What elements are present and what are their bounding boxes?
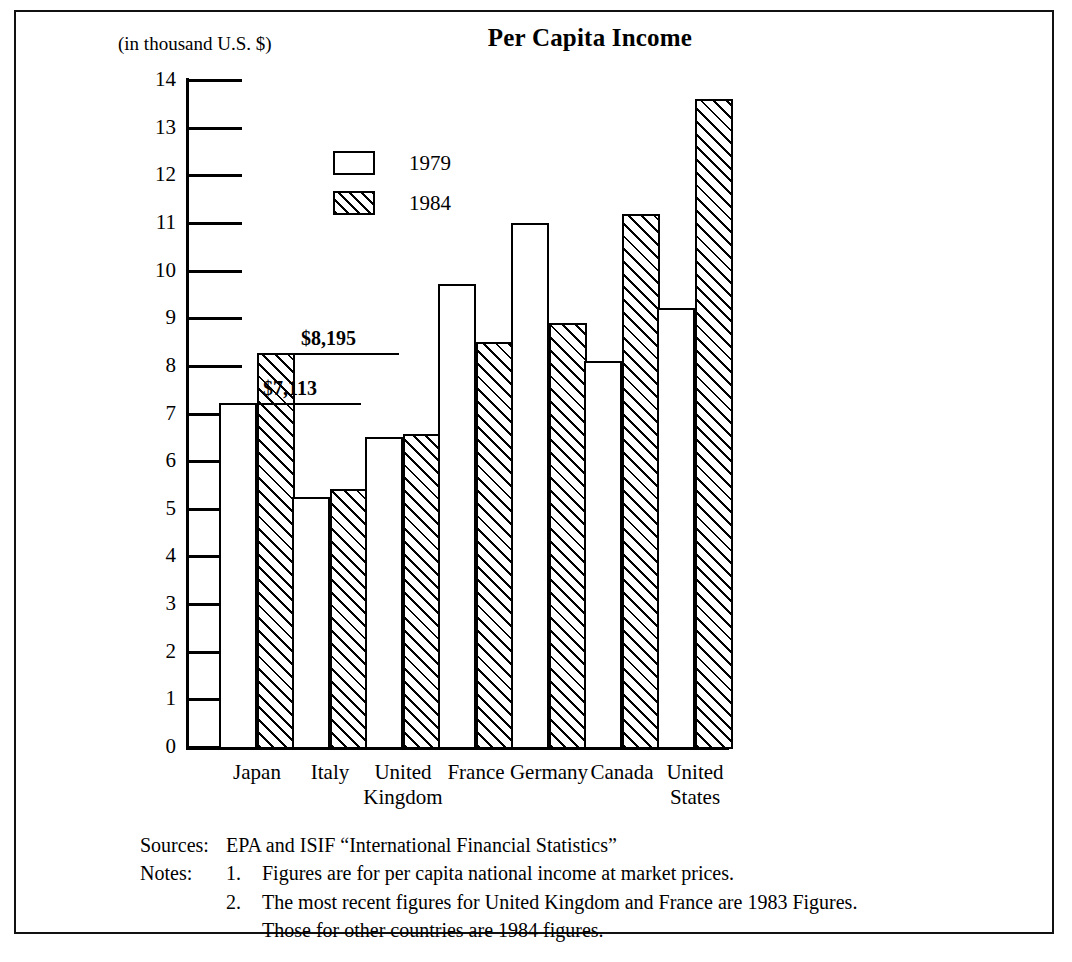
y-tick-label-7: 7 <box>130 403 176 424</box>
leader-line-8195 <box>295 353 399 355</box>
legend-swatch-hatched-icon <box>333 191 375 215</box>
note-1-number: 1. <box>226 859 262 887</box>
bar-canada-1979 <box>584 361 622 749</box>
y-tick-9 <box>186 317 242 320</box>
legend-swatch-open-icon <box>333 151 375 175</box>
footnotes-block: Sources: EPA and ISIF “International Fin… <box>140 831 857 945</box>
y-tick-label-8: 8 <box>130 355 176 376</box>
y-tick-label-2: 2 <box>130 641 176 662</box>
bar-united-states-1979 <box>657 308 695 749</box>
y-tick-label-13: 13 <box>130 117 176 138</box>
x-label-united-states: United States <box>629 760 761 810</box>
bar-japan-1979 <box>219 403 257 749</box>
y-tick-label-5: 5 <box>130 498 176 519</box>
y-tick-label-11: 11 <box>130 212 176 233</box>
bar-france-1979 <box>438 284 476 749</box>
bar-canada-1984 <box>622 214 660 749</box>
value-label-7113: $7,113 <box>263 377 317 400</box>
note-1: Notes: 1. Figures are for per capita nat… <box>140 859 857 887</box>
sources-line: Sources: EPA and ISIF “International Fin… <box>140 831 857 859</box>
y-tick-label-14: 14 <box>130 69 176 90</box>
y-tick-label-9: 9 <box>130 307 176 328</box>
y-tick-label-0: 0 <box>130 736 176 757</box>
bar-germany-1979 <box>511 223 549 749</box>
plot-area: 01234567891011121314 JapanItalyUnited Ki… <box>0 0 1072 962</box>
notes-label: Notes: <box>140 859 226 887</box>
y-tick-13 <box>186 127 242 130</box>
sources-label: Sources: <box>140 831 226 859</box>
note-2: 2. The most recent figures for United Ki… <box>140 888 857 916</box>
y-tick-label-1: 1 <box>130 688 176 709</box>
bar-united-kingdom-1984 <box>403 434 441 749</box>
legend-label-1979: 1979 <box>409 151 451 176</box>
y-tick-label-12: 12 <box>130 164 176 185</box>
chart-page: Per Capita Income (in thousand U.S. $) 0… <box>0 0 1072 962</box>
bar-japan-1984 <box>257 353 295 749</box>
note-1-text: Figures are for per capita national inco… <box>262 859 734 887</box>
note-2-continuation-spacer <box>140 916 262 944</box>
bar-united-states-1984 <box>695 99 733 749</box>
y-tick-11 <box>186 222 242 225</box>
note-2-text: The most recent figures for United Kingd… <box>262 888 857 916</box>
bar-italy-1979 <box>292 497 330 749</box>
y-tick-14 <box>186 79 242 82</box>
note-2-number: 2. <box>226 888 262 916</box>
leader-line-7113 <box>257 403 361 405</box>
y-tick-8 <box>186 365 242 368</box>
y-tick-label-3: 3 <box>130 593 176 614</box>
bar-germany-1984 <box>549 323 587 749</box>
chart-legend: 1979 1984 <box>333 143 451 223</box>
note-2-continuation-text: Those for other countries are 1984 figur… <box>262 916 604 944</box>
y-tick-label-10: 10 <box>130 260 176 281</box>
y-tick-label-6: 6 <box>130 450 176 471</box>
legend-item-1984: 1984 <box>333 183 451 223</box>
bar-france-1984 <box>476 342 514 749</box>
y-tick-label-4: 4 <box>130 545 176 566</box>
note-2-spacer <box>140 888 226 916</box>
y-tick-10 <box>186 270 242 273</box>
legend-item-1979: 1979 <box>333 143 451 183</box>
value-label-8195: $8,195 <box>301 327 356 350</box>
note-2-continuation: Those for other countries are 1984 figur… <box>140 916 857 944</box>
legend-label-1984: 1984 <box>409 191 451 216</box>
y-tick-12 <box>186 174 242 177</box>
bar-united-kingdom-1979 <box>365 437 403 749</box>
bar-italy-1984 <box>330 489 368 749</box>
sources-text: EPA and ISIF “International Financial St… <box>226 831 617 859</box>
